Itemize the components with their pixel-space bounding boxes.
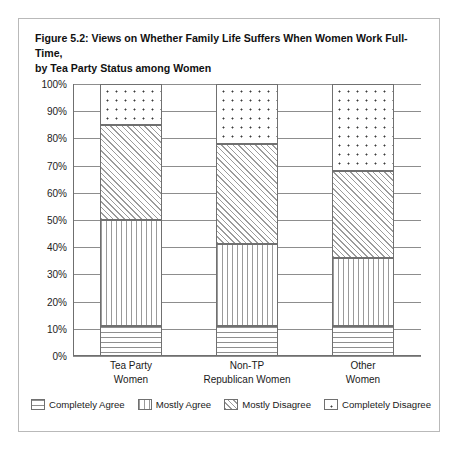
bar-segment[interactable] [216,144,278,245]
y-axis-tick-label: 60% [25,187,67,198]
y-axis-tick-label: 30% [25,269,67,280]
bar-segment[interactable] [216,84,278,144]
x-axis-category-label-line: Other [305,359,421,373]
legend-item[interactable]: Completely Disagree [324,399,431,410]
legend-label: Completely Agree [49,399,125,410]
legend-swatch-vertical-lines-icon [138,399,152,410]
x-axis-category-label-line: Republican Women [189,373,305,387]
bar-segment[interactable] [100,326,162,356]
legend-label: Mostly Agree [156,399,211,410]
legend-swatch-dots-icon [324,399,338,410]
y-axis-tick-label: 80% [25,133,67,144]
bar-group [100,84,162,356]
x-axis-category-label-line: Non-TP [189,359,305,373]
y-axis-tick-labels: 0%10%20%30%40%50%60%70%80%90%100% [19,84,67,356]
plot-area [73,84,421,356]
y-axis-tick-label: 70% [25,160,67,171]
y-axis-tick-label: 0% [25,351,67,362]
x-axis-category-label-line: Tea Party [73,359,189,373]
stacked-bar[interactable] [332,84,394,356]
y-axis-tick-label: 10% [25,323,67,334]
legend-label: Mostly Disagree [242,399,311,410]
bar-group [216,84,278,356]
legend-swatch-horizontal-lines-icon [31,399,45,410]
bar-segment[interactable] [332,84,394,171]
y-axis-tick-label: 50% [25,215,67,226]
x-axis-category-label: Tea PartyWomen [73,359,189,386]
legend-label: Completely Disagree [342,399,431,410]
chart-legend: Completely AgreeMostly AgreeMostly Disag… [29,395,433,413]
x-axis-category-label-line: Women [305,373,421,387]
bar-segment[interactable] [332,258,394,326]
bar-segment[interactable] [332,326,394,356]
figure-title-line-1: Figure 5.2: Views on Whether Family Life… [35,31,425,61]
y-axis-tick-label: 20% [25,296,67,307]
bar-segment[interactable] [216,326,278,356]
bar-segment[interactable] [100,220,162,326]
bar-segment[interactable] [100,84,162,125]
x-axis-category-labels: Tea PartyWomenNon-TPRepublican WomenOthe… [73,359,421,393]
figure-frame: Figure 5.2: Views on Whether Family Life… [18,18,440,432]
x-axis-category-label-line: Women [73,373,189,387]
y-axis-tick-label: 90% [25,106,67,117]
stacked-bar[interactable] [100,84,162,356]
y-axis-tick-label: 100% [25,79,67,90]
bars-layer [73,84,421,356]
x-axis-category-label: Non-TPRepublican Women [189,359,305,386]
stacked-bar[interactable] [216,84,278,356]
bar-group [332,84,394,356]
x-axis-category-label: OtherWomen [305,359,421,386]
legend-item[interactable]: Completely Agree [31,399,125,410]
legend-item[interactable]: Mostly Agree [138,399,211,410]
figure-title-line-2: by Tea Party Status among Women [35,61,425,76]
bar-segment[interactable] [332,171,394,258]
gridline [73,356,421,357]
legend-item[interactable]: Mostly Disagree [224,399,311,410]
bar-segment[interactable] [216,244,278,326]
figure-title: Figure 5.2: Views on Whether Family Life… [35,31,425,76]
bar-segment[interactable] [100,125,162,220]
y-axis-tick-label: 40% [25,242,67,253]
legend-swatch-diagonal-hatch-icon [224,399,238,410]
